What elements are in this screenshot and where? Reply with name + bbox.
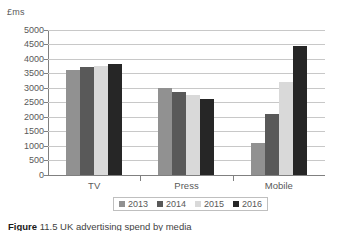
legend-swatch-icon-2013 <box>119 201 125 207</box>
y-axis-tick-label: 4500 <box>0 39 44 49</box>
bar-group-tv <box>48 30 140 176</box>
y-axis-tick-label: 1000 <box>0 141 44 151</box>
y-axis-tick-labels: 5000450040003500300025002000150010005000 <box>0 0 44 231</box>
x-axis-category-label-press: Press <box>174 180 198 191</box>
y-axis-tick-label: 5000 <box>0 25 44 35</box>
bar-tv-2014[interactable] <box>80 67 94 175</box>
plot-area <box>48 30 325 176</box>
legend-label-2014: 2014 <box>166 199 186 209</box>
bar-mobile-2015[interactable] <box>279 82 293 175</box>
chart-legend: 2013201420152016 <box>113 197 268 211</box>
y-axis-tick-label: 3500 <box>0 68 44 78</box>
y-axis-tick-label: 500 <box>0 155 44 165</box>
figure-caption: Figure 11.5 UK advertising spend by medi… <box>8 221 192 231</box>
figure-caption-label: Figure <box>8 221 37 231</box>
bar-group-press <box>140 30 232 176</box>
x-axis-category-label-mobile: Mobile <box>265 180 293 191</box>
bar-tv-2015[interactable] <box>94 66 108 175</box>
legend-item-2015[interactable]: 2015 <box>195 199 224 209</box>
y-axis-tick-label: 4000 <box>0 54 44 64</box>
legend-label-2013: 2013 <box>128 199 148 209</box>
x-axis-separator-tick <box>233 175 234 181</box>
y-axis-tick-label: 2500 <box>0 97 44 107</box>
legend-item-2016[interactable]: 2016 <box>233 199 262 209</box>
bar-chart-figure: £ms 500045004000350030002500200015001000… <box>0 0 340 231</box>
legend-label-2015: 2015 <box>204 199 224 209</box>
figure-caption-text: 11.5 UK advertising spend by media <box>40 221 192 231</box>
legend-item-2013[interactable]: 2013 <box>119 199 148 209</box>
y-axis-tick-label: 3000 <box>0 83 44 93</box>
y-axis-tick-label: 2000 <box>0 112 44 122</box>
legend-item-2014[interactable]: 2014 <box>157 199 186 209</box>
bar-series-container <box>48 30 325 176</box>
bar-mobile-2013[interactable] <box>251 143 265 175</box>
y-axis-tick-label: 0 <box>0 170 44 180</box>
bar-press-2013[interactable] <box>158 88 172 175</box>
bar-mobile-2016[interactable] <box>293 46 307 175</box>
bar-tv-2016[interactable] <box>108 64 122 175</box>
x-axis-category-label-tv: TV <box>88 180 100 191</box>
bar-mobile-2014[interactable] <box>265 114 279 175</box>
bar-press-2014[interactable] <box>172 92 186 175</box>
legend-label-2016: 2016 <box>242 199 262 209</box>
bar-press-2016[interactable] <box>200 99 214 175</box>
y-axis-tick-label: 1500 <box>0 126 44 136</box>
bar-group-mobile <box>233 30 325 176</box>
x-axis-line <box>48 175 325 176</box>
x-axis-separator-tick <box>140 175 141 181</box>
bar-press-2015[interactable] <box>186 95 200 175</box>
bar-tv-2013[interactable] <box>66 70 80 175</box>
legend-swatch-icon-2015 <box>195 201 201 207</box>
legend-swatch-icon-2014 <box>157 201 163 207</box>
legend-swatch-icon-2016 <box>233 201 239 207</box>
